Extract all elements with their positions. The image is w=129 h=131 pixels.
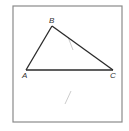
- edge-bc: [52, 26, 113, 70]
- vertex-label-c: C: [110, 71, 116, 80]
- vertex-label-b: B: [49, 16, 55, 25]
- triangle-diagram: A B C: [0, 0, 129, 131]
- vertex-label-a: A: [21, 71, 27, 80]
- edge-ab: [26, 26, 52, 70]
- faint-mark: [65, 91, 71, 104]
